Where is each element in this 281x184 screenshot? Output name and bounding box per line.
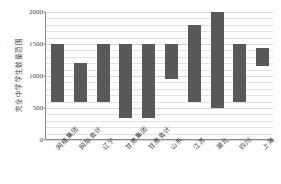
bar — [211, 12, 224, 108]
gridline — [46, 38, 273, 39]
y-tick-mark — [42, 108, 45, 109]
bar — [74, 63, 87, 101]
plot-area — [45, 12, 273, 140]
gridline — [46, 31, 273, 32]
bar — [97, 44, 110, 102]
y-tick-label: 500 — [9, 104, 43, 112]
bar — [51, 44, 64, 102]
gridline — [46, 12, 273, 13]
gridline — [46, 25, 273, 26]
range-bar-chart: 完全中学学生数量范围 0500100015002000 网络集团网际会计辽宁甘肃… — [0, 0, 281, 184]
gridline — [46, 121, 273, 122]
y-tick-label: 1000 — [9, 72, 43, 80]
y-tick-label: 2000 — [9, 8, 43, 16]
bar — [119, 44, 132, 118]
gridline — [46, 114, 273, 115]
bar — [188, 25, 201, 102]
gridline — [46, 18, 273, 19]
y-tick-label: 1500 — [9, 40, 43, 48]
bar — [233, 44, 246, 102]
y-tick-label: 0 — [9, 136, 43, 144]
bar — [256, 48, 269, 66]
bar — [142, 44, 155, 118]
y-tick-mark — [42, 76, 45, 77]
y-tick-mark — [42, 12, 45, 13]
y-tick-mark — [42, 140, 45, 141]
y-tick-mark — [42, 44, 45, 45]
gridline — [46, 108, 273, 109]
gridline — [46, 102, 273, 103]
bar — [165, 44, 178, 79]
